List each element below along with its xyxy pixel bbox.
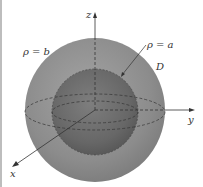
z-axis-label: z <box>85 9 92 20</box>
y-axis-arrow-icon <box>189 108 195 112</box>
inner-sphere <box>52 69 138 155</box>
z-axis-arrow-icon <box>93 12 97 18</box>
region-label: D <box>155 61 164 72</box>
outer-sphere-label: ρ = b <box>22 46 50 57</box>
x-axis-arrow-icon <box>12 161 19 167</box>
spherical-shell-diagram: z y x ρ = b ρ = a D <box>0 0 203 187</box>
inner-sphere-label: ρ = a <box>146 39 174 50</box>
diagram-frame: z y x ρ = b ρ = a D <box>0 0 203 187</box>
x-axis-label: x <box>10 168 16 179</box>
y-axis-label: y <box>187 114 194 125</box>
